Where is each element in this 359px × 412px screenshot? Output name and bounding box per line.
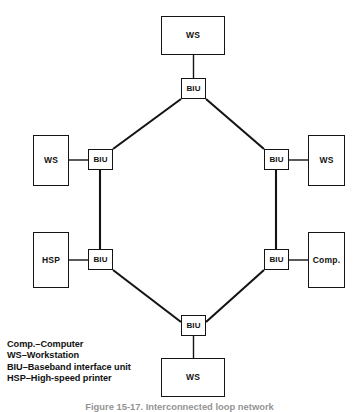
node-label-biu-left-lower: BIU [93,256,107,264]
node-label-biu-right-upper: BIU [269,156,283,164]
node-biu-right-lower[interactable]: BIU [264,249,289,270]
node-label-ws-bottom: WS [186,373,200,382]
node-ws-right[interactable]: WS [308,135,345,186]
legend-line-1: Comp.–Computer [7,339,187,350]
node-comp-right[interactable]: Comp. [308,232,345,288]
node-label-hsp-left: HSP [42,256,60,265]
node-label-biu-top: BIU [186,85,200,93]
node-hsp-left[interactable]: HSP [33,232,69,288]
figure-caption: Figure 15-17. Interconnected loop networ… [0,401,359,412]
legend-line-3: BIU–Baseband interface unit [7,362,187,373]
legend: Comp.–ComputerWS–WorkstationBIU–Baseband… [7,339,187,385]
node-biu-top[interactable]: BIU [181,78,206,99]
node-ws-top[interactable]: WS [161,16,225,55]
node-biu-left-upper[interactable]: BIU [88,149,113,170]
link-biu-top-biu-right [206,99,264,149]
link-biu-top-biu-left [113,99,181,149]
node-label-comp-right: Comp. [313,256,340,265]
legend-line-4: HSP–High-speed printer [7,373,187,384]
links-layer [69,55,308,358]
figure-caption-text: Figure 15-17. Interconnected loop networ… [0,401,359,412]
node-label-ws-left: WS [44,156,58,165]
node-ws-left[interactable]: WS [33,135,69,186]
node-biu-right-upper[interactable]: BIU [264,149,289,170]
node-biu-left-lower[interactable]: BIU [88,249,113,270]
node-label-biu-right-lower: BIU [269,256,283,264]
node-label-ws-right: WS [319,156,333,165]
node-label-ws-top: WS [186,31,200,40]
legend-line-2: WS–Workstation [7,350,187,361]
link-biu-left-biu-bottom [113,270,181,322]
node-label-biu-bottom: BIU [186,322,200,330]
node-biu-bottom[interactable]: BIU [181,315,206,336]
node-label-biu-left-upper: BIU [93,156,107,164]
link-biu-right-biu-bottom [206,270,264,322]
